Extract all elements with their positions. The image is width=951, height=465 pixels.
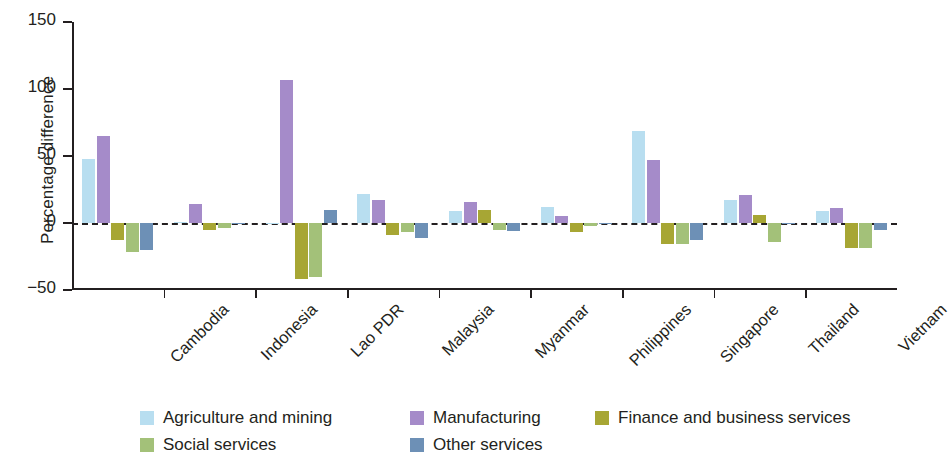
- legend-item-finance-and-business-services: Finance and business services: [595, 408, 895, 428]
- x-axis-category-label: Malaysia: [438, 300, 497, 359]
- x-axis-category-label: Lao PDR: [347, 300, 408, 361]
- bar-group: [357, 22, 428, 290]
- bar: [415, 223, 428, 238]
- bar-group: [174, 22, 245, 290]
- bar-group: [266, 22, 337, 290]
- y-axis-tick-label: 0: [47, 211, 56, 231]
- legend-item-manufacturing: Manufacturing: [410, 408, 595, 428]
- bar: [266, 223, 279, 224]
- bar: [647, 160, 660, 223]
- legend-label-social-services: Social services: [163, 435, 276, 455]
- bar: [874, 223, 887, 230]
- y-axis-tick-label: 100: [28, 77, 56, 97]
- bar: [386, 223, 399, 235]
- bar: [280, 80, 293, 223]
- bar: [690, 223, 703, 240]
- bar: [309, 223, 322, 277]
- bar: [493, 223, 506, 230]
- bar-group: [632, 22, 703, 290]
- bar: [676, 223, 689, 244]
- x-axis-tick: [622, 290, 624, 298]
- legend-label-finance-and-business-services: Finance and business services: [618, 408, 850, 428]
- x-axis-category-label: Singapore: [716, 300, 783, 367]
- bar-group: [82, 22, 153, 290]
- x-axis-tick: [347, 290, 349, 298]
- bar: [478, 210, 491, 223]
- x-axis-category-label: Vietnam: [895, 300, 951, 356]
- legend-item-other-services: Other services: [410, 435, 595, 455]
- y-axis-tick: −50: [63, 289, 72, 291]
- bar: [232, 223, 245, 224]
- plot-area: −50050100150: [72, 22, 897, 290]
- y-axis-tick: 150: [63, 21, 72, 23]
- y-axis-tick-label: −50: [27, 278, 56, 298]
- bar: [372, 200, 385, 223]
- x-axis-category-label: Philippines: [626, 300, 696, 370]
- legend-swatch-agriculture-and-mining: [140, 411, 154, 425]
- legend-swatch-finance-and-business-services: [595, 411, 609, 425]
- bar: [203, 223, 216, 230]
- bar: [189, 204, 202, 223]
- bar: [739, 195, 752, 223]
- legend-item-agriculture-and-mining: Agriculture and mining: [140, 408, 410, 428]
- bar-group: [541, 22, 612, 290]
- bar: [174, 222, 187, 223]
- legend-item-social-services: Social services: [140, 435, 410, 455]
- x-axis-tick: [439, 290, 441, 298]
- bar: [753, 215, 766, 223]
- x-axis-tick: [714, 290, 716, 298]
- y-axis-tick-label: 150: [28, 10, 56, 30]
- bar-group: [724, 22, 795, 290]
- bar: [859, 223, 872, 248]
- bar: [599, 223, 612, 224]
- bar: [82, 159, 95, 223]
- bar: [632, 131, 645, 223]
- bar: [768, 223, 781, 242]
- bar: [218, 223, 231, 228]
- y-axis-tick: 0: [63, 222, 72, 224]
- y-axis-tick: 50: [63, 155, 72, 157]
- bar: [357, 194, 370, 223]
- legend-label-other-services: Other services: [433, 435, 543, 455]
- bar-group: [816, 22, 887, 290]
- bar: [97, 136, 110, 223]
- chart-legend: Agriculture and mining Manufacturing Fin…: [140, 404, 900, 458]
- bar: [126, 223, 139, 252]
- x-axis-category-label: Indonesia: [256, 300, 320, 364]
- bar: [401, 223, 414, 232]
- bar: [140, 223, 153, 250]
- bar: [295, 223, 308, 279]
- x-axis-tick: [805, 290, 807, 298]
- bar: [724, 200, 737, 223]
- legend-row-1: Agriculture and mining Manufacturing Fin…: [140, 404, 900, 431]
- x-axis-category-label: Thailand: [804, 300, 862, 358]
- bar: [111, 223, 124, 240]
- y-axis-tick: 100: [63, 88, 72, 90]
- legend-label-manufacturing: Manufacturing: [433, 408, 541, 428]
- bar: [782, 223, 795, 224]
- bar-group: [449, 22, 520, 290]
- bar: [845, 223, 858, 248]
- bar: [449, 211, 462, 223]
- bar: [584, 223, 597, 226]
- bar: [830, 208, 843, 223]
- bar: [555, 216, 568, 223]
- x-axis-tick: [255, 290, 257, 298]
- legend-row-2: Social services Other services: [140, 431, 900, 458]
- y-axis-line: [72, 22, 74, 290]
- bar: [570, 223, 583, 232]
- x-axis-tick: [164, 290, 166, 298]
- bar: [661, 223, 674, 244]
- legend-swatch-manufacturing: [410, 411, 424, 425]
- bar: [464, 202, 477, 223]
- bar: [324, 210, 337, 223]
- legend-swatch-social-services: [140, 438, 154, 452]
- bar: [541, 207, 554, 223]
- legend-label-agriculture-and-mining: Agriculture and mining: [163, 408, 332, 428]
- y-axis-tick-label: 50: [37, 144, 56, 164]
- bar: [816, 211, 829, 223]
- x-axis-category-label: Cambodia: [166, 300, 233, 367]
- x-axis-tick: [530, 290, 532, 298]
- x-axis-category-label: Myanmar: [531, 300, 593, 362]
